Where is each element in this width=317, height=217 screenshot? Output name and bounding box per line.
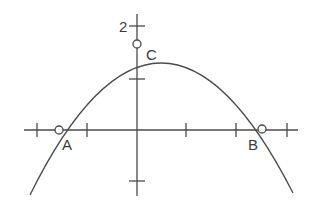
parabola-curve	[30, 63, 293, 195]
point-b-marker	[258, 125, 266, 133]
point-c-marker	[133, 40, 141, 48]
point-c-label: C	[146, 46, 157, 63]
parabola-diagram: 2 A B C	[0, 0, 317, 217]
point-a-marker	[55, 126, 63, 134]
point-b-label: B	[248, 136, 258, 153]
y-axis-label-2: 2	[119, 18, 127, 35]
point-a-label: A	[62, 136, 72, 153]
